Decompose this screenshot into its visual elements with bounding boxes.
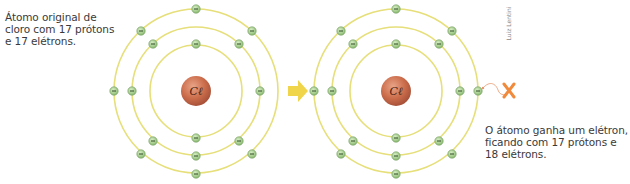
electron-icon xyxy=(110,87,118,95)
electron-icon xyxy=(448,150,456,158)
electron-icon xyxy=(337,27,345,35)
electron-icon xyxy=(192,40,200,48)
electron-icon xyxy=(137,150,145,158)
electron-icon xyxy=(337,150,345,158)
electron-icon xyxy=(149,137,157,145)
electron-icon xyxy=(448,27,456,35)
electron-icon xyxy=(192,134,200,142)
electron-icon xyxy=(474,87,482,95)
electron-icon xyxy=(248,27,256,35)
atom-diagram: CℓCℓ xyxy=(0,0,630,184)
electron-icon xyxy=(435,137,443,145)
electron-icon xyxy=(328,87,336,95)
nucleus-symbol: Cℓ xyxy=(190,85,203,98)
electron-icon xyxy=(256,87,264,95)
electron-icon xyxy=(192,152,200,160)
electron-icon xyxy=(392,134,400,142)
electron-icon xyxy=(392,152,400,160)
electron-icon xyxy=(192,5,200,13)
electron-icon xyxy=(192,170,200,178)
electron-icon xyxy=(248,150,256,158)
electron-icon xyxy=(235,40,243,48)
electron-icon xyxy=(392,170,400,178)
electron-icon xyxy=(392,40,400,48)
atom-ion: Cℓ xyxy=(310,5,482,178)
electron-icon xyxy=(235,137,243,145)
atom-original: Cℓ xyxy=(110,5,278,178)
electron-icon xyxy=(137,27,145,35)
electron-icon xyxy=(149,40,157,48)
electron-icon xyxy=(349,137,357,145)
nucleus-symbol: Cℓ xyxy=(390,85,403,98)
electron-icon xyxy=(435,40,443,48)
electron-icon xyxy=(456,87,464,95)
electron-icon xyxy=(392,5,400,13)
x-mark-icon xyxy=(504,84,514,97)
electron-icon xyxy=(310,87,318,95)
electron-icon xyxy=(128,87,136,95)
electron-icon xyxy=(349,40,357,48)
right-arrow-icon xyxy=(288,80,308,102)
